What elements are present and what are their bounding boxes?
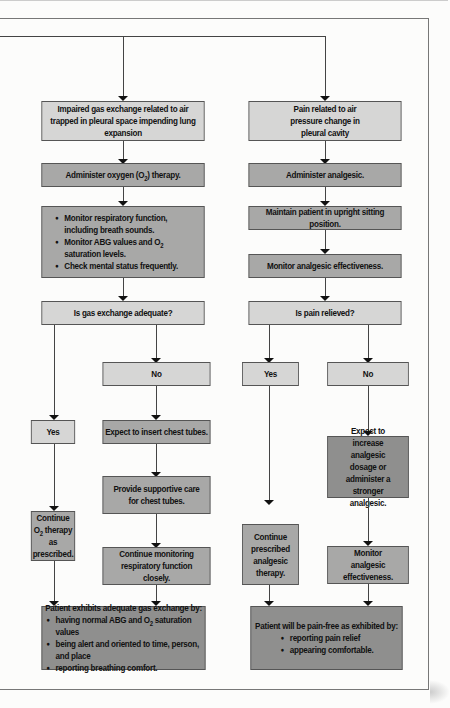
connector: [123, 141, 124, 159]
list-item: Monitor respiratory function, including …: [64, 212, 192, 236]
yes-label-left: Yes: [31, 420, 75, 444]
connector: [368, 498, 369, 541]
connector: [368, 325, 369, 358]
connector: [156, 514, 157, 543]
connector: [368, 584, 369, 601]
connector: [156, 325, 157, 358]
connector: [325, 36, 326, 96]
connector: [325, 278, 326, 296]
connector: [156, 386, 157, 415]
list-item: appearing comfortable.: [290, 644, 374, 656]
monitoring-box: Monitor respiratory function, including …: [41, 206, 204, 278]
administer-oxygen-box: Administer oxygen (O2) therapy.: [41, 163, 204, 187]
connector: [156, 585, 157, 601]
insert-chest-tubes-box: Expect to insert chest tubes.: [103, 420, 211, 444]
list-item: having normal ABG and O2 saturation valu…: [55, 614, 201, 638]
continue-analgesic-box: Continue prescribed analgesic therapy.: [242, 524, 299, 585]
monitor-effectiveness-box: Monitor analgesic effectiveness.: [327, 546, 409, 584]
diagnosis-gas-exchange: Impaired gas exchange related to air tra…: [41, 101, 204, 141]
connector: [269, 325, 270, 358]
list-item: being alert and oriented to time, person…: [55, 638, 201, 662]
outcome-list: having normal ABG and O2 saturation valu…: [45, 614, 201, 674]
list-item: Check mental status frequently.: [64, 260, 192, 272]
supportive-care-box: Provide supportive care for chest tubes.: [103, 476, 211, 514]
monitor-analgesic-box: Monitor analgesic effectiveness.: [249, 254, 402, 278]
outcome-pain: Patient will be pain-free as exhibited b…: [250, 606, 402, 670]
outcome-gas-exchange: Patient exhibits adequate gas exchange b…: [41, 606, 205, 670]
connector: [325, 187, 326, 201]
page-curl-shadow: [430, 680, 450, 704]
increase-dosage-box: Expect to increase analgesic dosage or a…: [327, 436, 409, 498]
administer-analgesic-box: Administer analgesic.: [249, 163, 402, 187]
page-top-rule: [0, 0, 448, 1]
connector: [269, 585, 270, 601]
connector: [123, 278, 124, 296]
connector: [156, 444, 157, 472]
upright-position-box: Maintain patient in upright sitting posi…: [249, 206, 402, 230]
connector: [325, 230, 326, 249]
outcome-list: reporting pain relief appearing comforta…: [280, 632, 374, 656]
connector: [54, 561, 55, 601]
connector: [54, 325, 55, 415]
diagnosis-pain: Pain related to air pressure change in p…: [249, 101, 402, 141]
connector: [123, 187, 124, 201]
connector: [269, 386, 270, 500]
list-item: Monitor ABG values and O2 saturation lev…: [64, 236, 192, 260]
connector: [54, 444, 55, 506]
no-label-right: No: [327, 362, 409, 386]
list-item: reporting breathing comfort.: [55, 662, 201, 674]
continue-monitoring-box: Continue monitoring respiratory function…: [103, 547, 211, 585]
arrow-down-icon: [264, 500, 274, 505]
decision-pain: Is pain relieved?: [249, 301, 402, 325]
list-item: reporting pain relief: [290, 632, 374, 644]
monitoring-list: Monitor respiratory function, including …: [54, 212, 192, 272]
yes-label-right: Yes: [242, 362, 299, 386]
connector: [325, 141, 326, 159]
decision-gas-exchange: Is gas exchange adequate?: [41, 301, 204, 325]
no-label-left: No: [103, 362, 211, 386]
connector: [0, 36, 326, 37]
continue-o2-box: Continue O2 therapy as prescribed.: [31, 511, 75, 561]
connector: [123, 36, 124, 96]
